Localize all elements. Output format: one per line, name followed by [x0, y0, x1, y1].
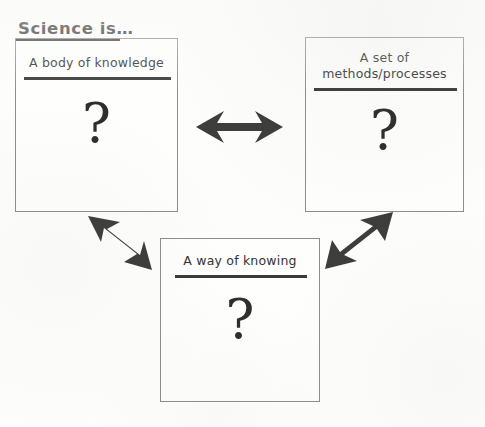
double-arrow-knowledge-methods [196, 111, 283, 143]
concept-box-methods-processes: A set of methods/processes ? [305, 37, 464, 212]
page-title: Science is… [18, 19, 134, 38]
concept-box-heading-underline [314, 88, 457, 91]
worksheet-canvas: Science is… A body of knowledge ? A set … [0, 0, 485, 427]
concept-box-heading-underline [175, 275, 307, 278]
double-arrow-knowing-methods [325, 212, 393, 269]
double-arrow-knowledge-knowing [88, 216, 152, 270]
concept-box-heading: A body of knowledge [16, 55, 177, 71]
concept-box-heading: A set of methods/processes [306, 50, 463, 82]
question-mark-glyph: ? [161, 293, 319, 347]
question-mark-glyph: ? [306, 104, 463, 158]
concept-box-heading: A way of knowing [161, 253, 319, 269]
page-title-underline [16, 39, 120, 41]
question-mark-glyph: ? [16, 97, 177, 151]
concept-box-way-of-knowing: A way of knowing ? [160, 238, 320, 402]
concept-box-body-of-knowledge: A body of knowledge ? [15, 38, 178, 212]
concept-box-heading-underline [24, 77, 171, 80]
